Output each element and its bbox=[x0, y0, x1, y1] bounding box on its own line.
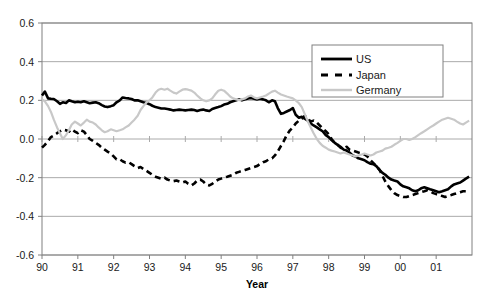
x-axis-title: Year bbox=[246, 278, 268, 290]
y-axis-tick-label: -0.2 bbox=[16, 172, 34, 184]
legend-label-japan: Japan bbox=[356, 69, 386, 81]
legend-label-germany: Germany bbox=[356, 84, 402, 96]
x-axis-tick-label: 92 bbox=[108, 261, 120, 273]
y-axis-tick-label: -0.6 bbox=[16, 249, 34, 261]
x-axis-tick-label: 94 bbox=[179, 261, 191, 273]
x-axis-tick-label: 95 bbox=[215, 261, 227, 273]
x-axis-tick-label: 96 bbox=[251, 261, 263, 273]
legend-label-us: US bbox=[356, 53, 371, 65]
x-axis-tick-label: 98 bbox=[323, 261, 335, 273]
x-axis-tick-label: 99 bbox=[359, 261, 371, 273]
x-axis-tick-label: 97 bbox=[287, 261, 299, 273]
x-axis-tick-label: 00 bbox=[394, 261, 406, 273]
line-chart: 0.60.40.20.0-0.2-0.4-0.6 909192939495969… bbox=[0, 0, 492, 302]
y-axis-tick-label: 0.4 bbox=[19, 56, 34, 68]
x-axis-tick-label: 90 bbox=[36, 261, 48, 273]
x-axis-tick-label: 93 bbox=[144, 261, 156, 273]
x-axis-labels: 909192939495969798990001 bbox=[36, 261, 442, 273]
chart-legend: US Japan Germany bbox=[312, 45, 443, 97]
y-axis-tick-label: 0.6 bbox=[19, 17, 34, 29]
y-axis-labels: 0.60.40.20.0-0.2-0.4-0.6 bbox=[16, 17, 34, 261]
chart-container: 0.60.40.20.0-0.2-0.4-0.6 909192939495969… bbox=[0, 0, 492, 302]
x-axis-tick-label: 91 bbox=[72, 261, 84, 273]
x-axis-tick-label: 01 bbox=[430, 261, 442, 273]
y-axis-tick-label: 0.0 bbox=[19, 133, 34, 145]
y-axis-tick-label: 0.2 bbox=[19, 94, 34, 106]
y-axis-tick-label: -0.4 bbox=[16, 210, 34, 222]
y-axis-ticks bbox=[38, 23, 42, 255]
